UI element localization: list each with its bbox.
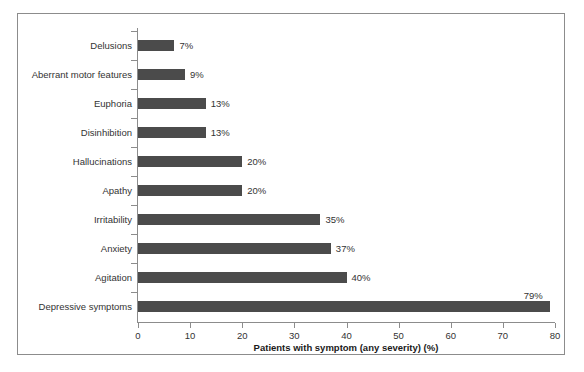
y-axis-tick (131, 147, 137, 148)
bar-value-label: 35% (325, 214, 344, 225)
x-axis-tick-label: 20 (237, 330, 248, 341)
y-axis-tick (131, 205, 137, 206)
x-axis-tick (347, 323, 348, 328)
bar (138, 156, 242, 167)
x-axis-tick (138, 323, 139, 328)
bar (138, 127, 206, 138)
x-axis-tick (451, 323, 452, 328)
chart-figure: Delusions7%Aberrant motor features9%Euph… (17, 13, 565, 355)
y-axis-tick (131, 31, 137, 32)
bar-value-label: 9% (190, 69, 204, 80)
bar (138, 40, 174, 51)
x-axis-tick (190, 323, 191, 328)
bar (138, 69, 185, 80)
x-axis-tick (294, 323, 295, 328)
bar (138, 185, 242, 196)
category-label: Irritability (18, 205, 132, 234)
category-label: Aberrant motor features (18, 60, 132, 89)
bar-value-label: 13% (211, 127, 230, 138)
y-axis-tick (131, 263, 137, 264)
bar-value-label: 13% (211, 98, 230, 109)
y-axis-tick (131, 60, 137, 61)
category-label: Apathy (18, 176, 132, 205)
bar-row: Disinhibition13% (18, 118, 564, 147)
bar-row: Aberrant motor features9% (18, 60, 564, 89)
plot-area: Delusions7%Aberrant motor features9%Euph… (18, 14, 564, 354)
y-axis-tick (131, 292, 137, 293)
y-axis-tick (131, 234, 137, 235)
x-axis-title: Patients with symptom (any severity) (%) (137, 342, 555, 353)
bar-row: Euphoria13% (18, 89, 564, 118)
bar-value-label: 37% (336, 243, 355, 254)
y-axis-tick (131, 118, 137, 119)
category-label: Euphoria (18, 89, 132, 118)
bar (138, 301, 550, 312)
bar-value-label: 40% (352, 272, 371, 283)
category-label: Anxiety (18, 234, 132, 263)
bar-value-label: 7% (179, 40, 193, 51)
category-label: Hallucinations (18, 147, 132, 176)
x-axis-tick (503, 323, 504, 328)
x-axis-tick-label: 30 (289, 330, 300, 341)
bar-row: Agitation40% (18, 263, 564, 292)
x-axis-tick (242, 323, 243, 328)
x-axis-tick-label: 50 (393, 330, 404, 341)
bar-row: Anxiety37% (18, 234, 564, 263)
x-axis-tick-label: 70 (498, 330, 509, 341)
bar-row: Depressive symptoms79% (18, 292, 564, 321)
bar-value-label: 79% (524, 290, 543, 301)
x-axis-tick-label: 40 (341, 330, 352, 341)
x-axis-tick-label: 60 (445, 330, 456, 341)
bar-row: Apathy20% (18, 176, 564, 205)
bar-row: Hallucinations20% (18, 147, 564, 176)
bar-row: Delusions7% (18, 31, 564, 60)
x-axis-tick (555, 323, 556, 328)
bar (138, 98, 206, 109)
category-label: Depressive symptoms (18, 292, 132, 321)
bar-value-label: 20% (247, 156, 266, 167)
bar (138, 243, 331, 254)
x-axis-tick-label: 80 (550, 330, 561, 341)
bar-row: Irritability35% (18, 205, 564, 234)
category-label: Agitation (18, 263, 132, 292)
y-axis-tick (131, 89, 137, 90)
y-axis-tick (131, 176, 137, 177)
x-axis-tick (399, 323, 400, 328)
bar (138, 214, 320, 225)
bar (138, 272, 347, 283)
x-axis-tick-label: 10 (185, 330, 196, 341)
x-axis-tick-label: 0 (135, 330, 140, 341)
category-label: Disinhibition (18, 118, 132, 147)
bar-value-label: 20% (247, 185, 266, 196)
category-label: Delusions (18, 31, 132, 60)
